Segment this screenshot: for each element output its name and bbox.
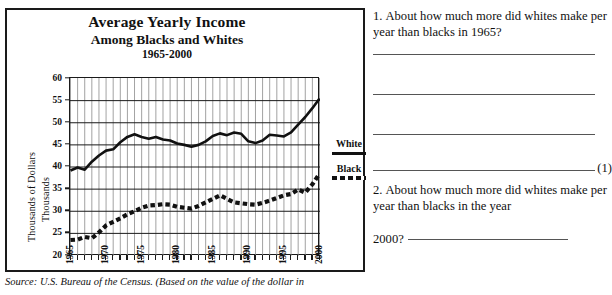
y-tick-label: 55: [22, 95, 62, 105]
y-tick-mark: [65, 165, 70, 166]
x-tick-label: 1980: [171, 245, 181, 264]
chart-title-line-1: Average Yearly Income: [7, 14, 327, 31]
x-tick-mark: [190, 255, 191, 260]
answer-rule: [373, 170, 595, 171]
x-tick-mark: [205, 255, 206, 260]
y-tick-label: 25: [22, 227, 62, 237]
chart-panel: Average Yearly Income Among Blacks and W…: [5, 8, 365, 272]
x-tick-mark: [297, 255, 298, 260]
question-1-answer-line-3[interactable]: [373, 128, 612, 140]
x-tick-mark: [77, 255, 78, 260]
x-tick-mark: [112, 255, 113, 260]
question-1-answer-line-4[interactable]: (1): [373, 164, 612, 176]
chart-title-block: Average Yearly Income Among Blacks and W…: [7, 14, 327, 60]
x-tick-mark: [119, 255, 120, 260]
y-tick-label: 20: [22, 250, 62, 260]
y-tick-mark: [65, 121, 70, 122]
x-tick-mark: [269, 255, 270, 260]
x-tick-mark: [254, 255, 255, 260]
x-tick-mark: [304, 255, 305, 260]
question-1: 1.About how much more did whites make pe…: [373, 8, 612, 40]
x-tick-label: 1975: [136, 245, 146, 264]
y-tick-mark: [65, 210, 70, 211]
legend-swatch-white-solid-line: [332, 152, 366, 155]
question-1-answer-line-2[interactable]: [373, 88, 612, 100]
x-tick-mark: [126, 255, 127, 260]
x-tick-mark: [84, 255, 85, 260]
x-tick-mark: [134, 255, 135, 260]
x-tick-label: 1990: [242, 245, 252, 264]
y-tick-label: 35: [22, 183, 62, 193]
x-tick-mark: [148, 255, 149, 260]
plot-area: [69, 77, 319, 255]
y-tick-mark: [65, 232, 70, 233]
worksheet-page: Average Yearly Income Among Blacks and W…: [0, 0, 612, 295]
y-tick-label: 30: [22, 205, 62, 215]
x-tick-label: 1985: [207, 245, 217, 264]
chart-title-line-3: 1965-2000: [7, 48, 327, 61]
chart-legend: White Black: [329, 138, 369, 180]
answer-rule: [373, 94, 595, 95]
x-tick-label: 1970: [100, 245, 110, 264]
x-tick-mark: [311, 255, 312, 260]
legend-label-black: Black: [329, 163, 369, 175]
y-tick-mark: [65, 77, 70, 78]
source-citation: Source: U.S. Bureau of the Census. (Base…: [5, 276, 377, 288]
question-1-answer-line-1[interactable]: [373, 48, 612, 60]
y-tick-mark: [65, 99, 70, 100]
x-tick-label: 1965: [65, 245, 75, 264]
x-tick-mark: [91, 255, 92, 260]
question-2-number: 2.: [373, 183, 382, 197]
answer-rule: [408, 239, 568, 240]
y-tick-label: 60: [22, 73, 62, 83]
question-2-text: About how much more did whites make per …: [373, 183, 607, 213]
plot-area-wrapper: 202530354045505560 196519701975198019851…: [64, 72, 322, 258]
x-tick-mark: [155, 255, 156, 260]
y-tick-label: 45: [22, 139, 62, 149]
y-tick-mark: [65, 143, 70, 144]
answer-rule: [373, 54, 595, 55]
x-tick-mark: [162, 255, 163, 260]
plot-svg: [70, 78, 320, 256]
question-2: 2.About how much more did whites make pe…: [373, 182, 612, 214]
question-2-continuation: 2000?: [373, 232, 404, 246]
legend-swatch-black-dashed-line: [332, 176, 366, 180]
y-tick-label: 50: [22, 117, 62, 127]
question-1-text: About how much more did whites make per …: [373, 9, 607, 39]
y-tick-label: 40: [22, 161, 62, 171]
y-tick-mark: [65, 187, 70, 188]
legend-label-white: White: [329, 138, 369, 150]
chart-title-line-2: Among Blacks and Whites: [7, 32, 327, 47]
x-tick-label: 1995: [278, 245, 288, 264]
x-tick-mark: [219, 255, 220, 260]
question-1-marker: (1): [597, 161, 612, 176]
x-tick-mark: [276, 255, 277, 260]
x-tick-mark: [183, 255, 184, 260]
x-tick-mark: [233, 255, 234, 260]
x-tick-mark: [198, 255, 199, 260]
x-tick-mark: [290, 255, 291, 260]
question-2-answer-row[interactable]: 2000?: [373, 232, 612, 247]
x-tick-mark: [262, 255, 263, 260]
x-tick-label: 2000: [314, 245, 324, 264]
questions-column: 1.About how much more did whites make pe…: [373, 4, 612, 295]
question-1-number: 1.: [373, 9, 382, 23]
x-tick-mark: [226, 255, 227, 260]
answer-rule: [373, 134, 595, 135]
